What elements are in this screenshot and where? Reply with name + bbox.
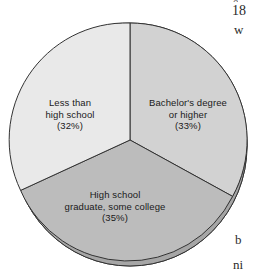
pie-label-high-school-graduate-percent: (35%) xyxy=(48,212,182,224)
page-text-fragment-top-clipped: e xyxy=(233,0,238,2)
page-text-fragment-bottom-ni: ni xyxy=(233,257,243,273)
page-text-fragment-top-number: 18 xyxy=(232,3,246,19)
pie-label-bachelors-degree-line2: or higher xyxy=(136,109,240,121)
page-text-fragment-bottom-b: b xyxy=(235,232,242,248)
pie-label-less-than-high-school-line1: Less than xyxy=(22,97,118,109)
pie-label-high-school-graduate-line2: graduate, some college xyxy=(48,201,182,213)
pie-top-face xyxy=(9,23,247,261)
pie-chart-graphic xyxy=(0,0,261,279)
pie-label-less-than-high-school-percent: (32%) xyxy=(22,120,118,132)
pie-chart-figure: Less than high school (32%) Bachelor's d… xyxy=(0,0,261,279)
pie-label-high-school-graduate: High school graduate, some college (35%) xyxy=(48,189,182,224)
pie-label-bachelors-degree-percent: (33%) xyxy=(136,120,240,132)
pie-label-bachelors-degree: Bachelor's degree or higher (33%) xyxy=(136,97,240,132)
pie-label-bachelors-degree-line1: Bachelor's degree xyxy=(136,97,240,109)
page-text-fragment-top-w: w xyxy=(234,22,243,38)
pie-label-high-school-graduate-line1: High school xyxy=(48,189,182,201)
pie-label-less-than-high-school: Less than high school (32%) xyxy=(22,97,118,132)
pie-label-less-than-high-school-line2: high school xyxy=(22,109,118,121)
